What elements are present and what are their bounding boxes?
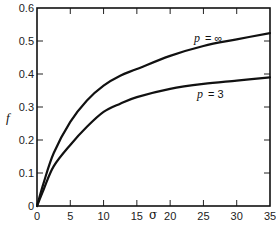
series-label-p-3: p = 3 [196, 87, 224, 101]
series-label-p-inf-p: p [193, 31, 200, 45]
x-tick-label: 5 [67, 210, 73, 222]
x-tick-label: 30 [231, 210, 243, 222]
series-line-p-3 [37, 77, 270, 206]
x-tick-label: 15 [131, 210, 143, 222]
x-tick-label: 25 [197, 210, 209, 222]
ticks-layer [37, 8, 270, 206]
y-tick-label: 0 [28, 200, 34, 212]
y-tick-label: 0.5 [19, 35, 34, 47]
y-tick-label: 0.1 [19, 167, 34, 179]
y-tick-label: 0.4 [19, 68, 34, 80]
line-chart: 0510152025303500.10.20.30.40.50.6 f σ p … [0, 0, 276, 226]
labels-layer: 0510152025303500.10.20.30.40.50.6 [19, 2, 276, 222]
plot-frame [37, 8, 270, 206]
y-tick-label: 0.6 [19, 2, 34, 14]
y-tick-label: 0.2 [19, 134, 34, 146]
y-tick-label: 0.3 [19, 101, 34, 113]
x-tick-label: 20 [164, 210, 176, 222]
x-tick-label: 10 [97, 210, 109, 222]
series-label-p-3-p: p [196, 87, 203, 101]
x-tick-label: 35 [264, 210, 276, 222]
x-axis-title: σ [149, 208, 157, 222]
series-label-p-inf-value: = ∞ [205, 32, 222, 44]
curves-layer [37, 33, 270, 206]
x-tick-label: 0 [34, 210, 40, 222]
series-line-p-inf [37, 33, 270, 206]
series-label-p-3-value: = 3 [208, 88, 224, 100]
series-label-p-inf: p = ∞ [193, 31, 222, 45]
y-axis-title: f [6, 110, 12, 125]
